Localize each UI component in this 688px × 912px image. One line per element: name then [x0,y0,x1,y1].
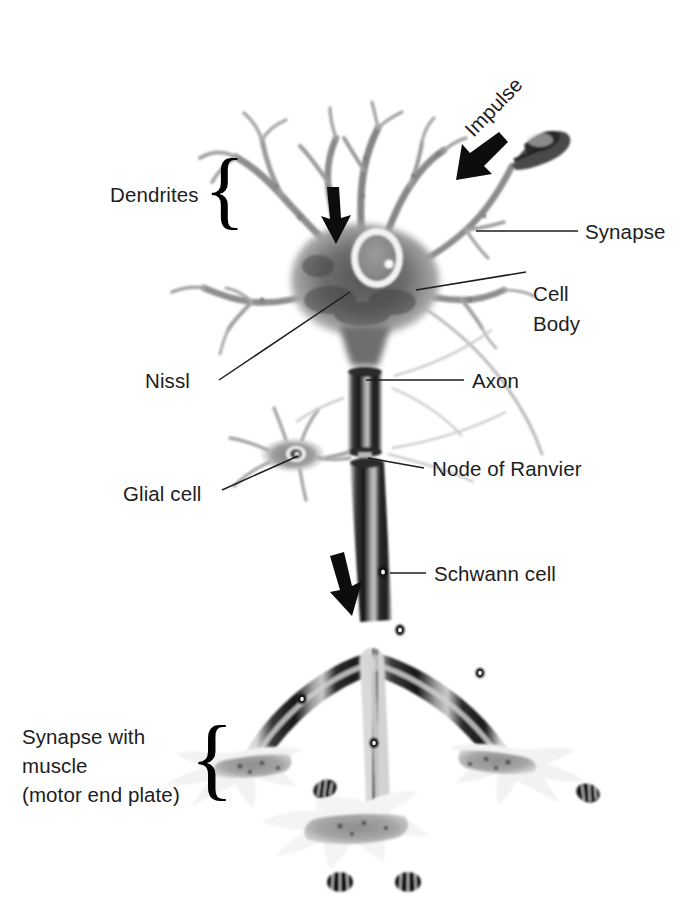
soma [291,224,440,366]
leader-nissl [219,292,350,380]
synapse-bouton [512,131,570,170]
muscle-brace: { [190,712,234,804]
leader-glial-cell [222,456,298,490]
nucleus [358,235,396,281]
label-glial-cell: Glial cell [123,481,201,507]
label-axon: Axon [472,368,519,394]
label-node-of-ranvier: Node of Ranvier [432,456,582,482]
nucleolus [384,259,393,268]
glial-cell [230,408,350,500]
label-synapse-muscle-line1: Synapse with [22,724,145,750]
label-cell-body-line2: Body [533,311,580,337]
label-synapse: Synapse [585,219,665,245]
label-synapse-muscle-line2: muscle [22,753,88,779]
label-schwann-cell: Schwann cell [434,561,556,587]
dendrites-brace: { [204,146,245,232]
label-cell-body-line1: Cell [533,281,569,307]
label-nissl: Nissl [145,368,190,394]
label-synapse-muscle-line3: (motor end plate) [22,782,180,808]
motor-end-plate-center [262,791,428,892]
neuron-illustration [0,0,688,912]
label-dendrites: Dendrites [110,182,199,208]
motor-end-plate-right [450,744,602,806]
neuron-diagram: Dendrites { Impulse Synapse Cell Body Ni… [0,0,688,912]
